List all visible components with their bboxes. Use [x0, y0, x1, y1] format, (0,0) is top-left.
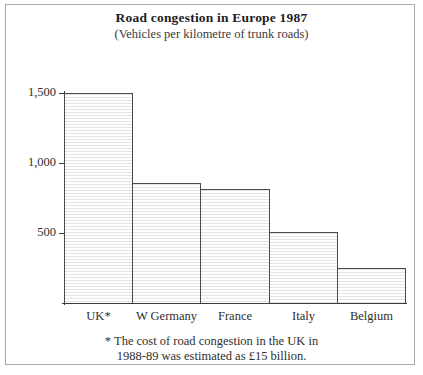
bar-belgium: [337, 268, 406, 303]
y-axis-label-500: 500: [0, 226, 56, 238]
footnote: * The cost of road congestion in the UK …: [0, 334, 423, 364]
x-axis-line: [62, 303, 407, 304]
bar-uk: [64, 93, 133, 303]
chart-title-block: Road congestion in Europe 1987 (Vehicles…: [0, 10, 423, 42]
chart-title: Road congestion in Europe 1987: [0, 10, 423, 26]
chart-page: Road congestion in Europe 1987 (Vehicles…: [0, 0, 423, 375]
bar-france: [200, 189, 270, 303]
x-axis-label-france: France: [200, 309, 270, 323]
bar-w-germany: [132, 183, 201, 303]
footnote-line-1: * The cost of road congestion in the UK …: [0, 334, 423, 349]
footnote-line-2: 1988-89 was estimated as £15 billion.: [0, 349, 423, 364]
x-axis-label-italy: Italy: [269, 309, 338, 323]
x-axis-label-w-germany: W Germany: [132, 309, 201, 323]
y-axis-label-1500: 1,500: [0, 86, 56, 98]
bar-italy: [269, 232, 338, 303]
x-axis-label-belgium: Belgium: [337, 309, 406, 323]
x-axis-label-uk: UK*: [64, 309, 133, 323]
y-axis-label-1000: 1,000: [0, 156, 56, 168]
chart-subtitle: (Vehicles per kilometre of trunk roads): [0, 26, 423, 42]
